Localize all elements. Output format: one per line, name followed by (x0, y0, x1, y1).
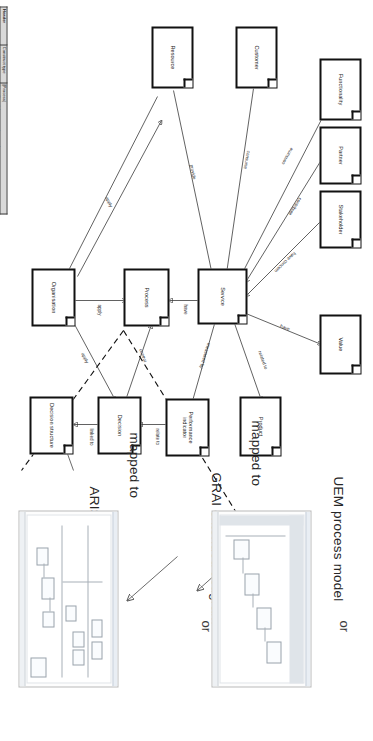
entity-functionality[interactable]: Functionality (319, 58, 361, 120)
thumb-canvas (26, 514, 111, 683)
thumb-statusbar (212, 511, 218, 686)
process-template-table: HeaderConstruct type[Process]Identifier[… (0, 6, 7, 214)
mapped-to-label-2: mapped to (126, 432, 141, 498)
entity-label: Value (337, 337, 343, 351)
entity-label: Stakeholder (337, 204, 343, 234)
entity-label: Process (143, 287, 149, 307)
thumb-canvas (219, 514, 304, 683)
table-cell-value: [Process] (0, 82, 7, 214)
figure-canvas: Functionality Partner Stakeholder Value … (0, 0, 373, 741)
edge-label-have-process: have (182, 304, 187, 314)
entity-label: Resource (169, 45, 175, 69)
or-label-1: or (336, 620, 351, 632)
thumb-statusbar (19, 511, 25, 686)
edge-label-linked-to: linked to (88, 428, 93, 445)
mapped-to-label-1: mapped to (248, 420, 263, 486)
table-cell-field: Construct type (0, 44, 7, 82)
entity-label: Service (219, 287, 225, 306)
edge-label-relate-to: relate to (154, 428, 159, 445)
entity-customer[interactable]: Customer (235, 26, 277, 88)
entity-service[interactable]: Service (197, 268, 247, 324)
entity-value[interactable]: Value (319, 314, 361, 374)
mapping-label-uem: UEM process model (330, 476, 345, 601)
entity-resource[interactable]: Resource (151, 26, 193, 88)
entity-process[interactable]: Process (123, 268, 169, 326)
entity-performance-indicator[interactable]: Performance indicator (165, 398, 209, 456)
thumb-titlebar (305, 511, 310, 686)
entity-label: Functionality (337, 73, 343, 104)
entity-partner[interactable]: Partner (319, 126, 361, 184)
table-cell-section: Header (0, 7, 7, 45)
entity-label: Partner (337, 146, 343, 164)
table-row: HeaderConstruct type[Process] (0, 7, 7, 214)
table-body: HeaderConstruct type[Process]Identifier[… (0, 7, 7, 214)
entity-stakeholder[interactable]: Stakeholder (319, 190, 361, 248)
entity-label: Decision (116, 414, 122, 435)
entity-label: Performance indicator (181, 401, 194, 453)
thumb-titlebar (112, 511, 117, 686)
thumbnail-grai-actigram[interactable] (211, 510, 311, 687)
entity-label: Organisation (50, 281, 56, 313)
entity-decision-structure[interactable]: Decision structure (29, 396, 73, 454)
entity-label: Customer (253, 45, 259, 69)
entity-organisation[interactable]: Organisation (31, 268, 75, 326)
figure-stage: Functionality Partner Stakeholder Value … (0, 0, 373, 741)
edge-label-apply-process: apply (96, 304, 101, 315)
thumbnail-uem-process-model[interactable] (18, 510, 118, 687)
entity-label: Decision structure (48, 403, 54, 448)
